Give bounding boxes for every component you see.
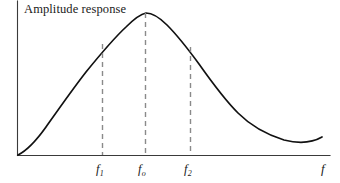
amplitude-response-figure: Amplitude response f1 fo f2 f — [0, 0, 340, 183]
tick-symbol-f1: f — [96, 162, 99, 176]
x-axis-label: f — [321, 162, 325, 175]
tick-label-fo: fo — [138, 163, 145, 176]
tick-symbol-fo: f — [138, 162, 141, 176]
y-axis-label: Amplitude response — [24, 3, 126, 16]
amplitude-response-curve — [18, 13, 322, 155]
tick-label-f1: f1 — [96, 163, 103, 176]
tick-subscript-fo: o — [142, 169, 146, 178]
plot-area — [0, 0, 340, 183]
tick-subscript-f2: 2 — [188, 169, 192, 178]
tick-label-f2: f2 — [184, 163, 191, 176]
tick-subscript-f1: 1 — [100, 169, 104, 178]
tick-symbol-f2: f — [184, 162, 187, 176]
